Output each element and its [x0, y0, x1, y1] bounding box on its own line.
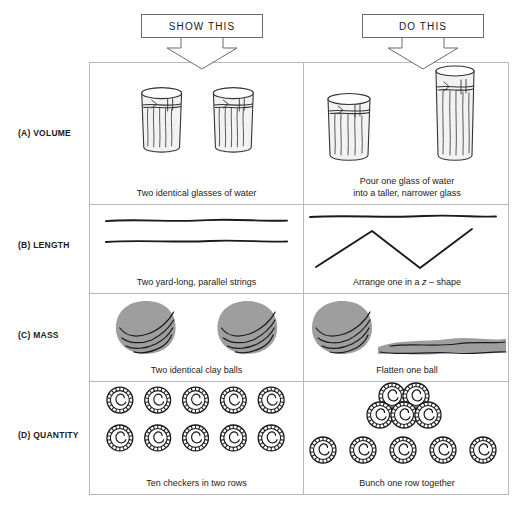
row-label-length: (B) LENGTH — [18, 240, 90, 250]
bunched-cluster-and-spread-row-icon — [304, 382, 510, 470]
arrow-down-show-icon — [141, 36, 263, 70]
cell-quantity-show: Ten checkers in two rows — [90, 382, 304, 494]
caption-mass-show: Two identical clay balls — [90, 365, 303, 377]
caption-length-do: Arrange one in a z – shape — [304, 277, 510, 289]
row-label-quantity: (D) QUANTITY — [18, 430, 90, 440]
caption-text-line2: into a taller, narrower glass — [353, 188, 461, 198]
table-row-quantity: Ten checkers in two rows — [90, 382, 508, 494]
cell-length-show: Two yard-long, parallel strings — [90, 205, 304, 293]
callout-do-this: DO THIS — [362, 14, 484, 38]
callout-do-this-label: DO THIS — [399, 21, 447, 32]
callout-show-this: SHOW THIS — [141, 14, 263, 38]
two-rows-of-five-checkers-icon — [90, 382, 303, 470]
caption-text-line1: Pour one glass of water — [360, 176, 455, 186]
caption-text: Bunch one row together — [359, 478, 455, 488]
straight-string-and-zigzag-string-icon — [304, 205, 510, 275]
row-label-mass: (C) MASS — [18, 330, 90, 340]
callout-show-this-label: SHOW THIS — [169, 21, 235, 32]
caption-text: Two yard-long, parallel strings — [137, 277, 257, 287]
cell-length-do: Arrange one in a z – shape — [304, 205, 510, 293]
two-round-clay-balls-icon — [90, 294, 303, 360]
caption-volume-do: Pour one glass of water into a taller, n… — [304, 176, 510, 199]
caption-length-show: Two yard-long, parallel strings — [90, 277, 303, 289]
caption-text: Two identical glasses of water — [137, 188, 257, 198]
caption-text: Two identical clay balls — [151, 365, 243, 375]
caption-quantity-show: Ten checkers in two rows — [90, 478, 303, 490]
caption-text-post: – shape — [427, 277, 462, 287]
cell-mass-do: Flatten one ball — [304, 294, 510, 381]
caption-text: Ten checkers in two rows — [146, 478, 247, 488]
clay-ball-and-flattened-pancake-icon — [304, 294, 510, 360]
arrow-down-do-icon — [362, 36, 484, 70]
caption-mass-do: Flatten one ball — [304, 365, 510, 377]
row-label-volume: (A) VOLUME — [18, 128, 90, 138]
tasks-table: Two identical glasses of water — [89, 62, 509, 495]
caption-quantity-do: Bunch one row together — [304, 478, 510, 490]
cell-volume-do: Pour one glass of water into a taller, n… — [304, 63, 510, 204]
cell-volume-show: Two identical glasses of water — [90, 63, 304, 204]
table-row-mass: Two identical clay balls — [90, 294, 508, 382]
conservation-tasks-figure: SHOW THIS DO THIS (A) VOLUME (B) LENGTH … — [0, 0, 525, 520]
short-glass-and-tall-narrow-glass-icon — [304, 63, 510, 173]
two-identical-short-glasses-icon — [90, 63, 303, 179]
cell-quantity-do: Bunch one row together — [304, 382, 510, 494]
table-row-volume: Two identical glasses of water — [90, 63, 508, 205]
caption-volume-show: Two identical glasses of water — [90, 188, 303, 200]
table-row-length: Two yard-long, parallel strings Arrange … — [90, 205, 508, 294]
two-parallel-straight-strings-icon — [90, 205, 303, 271]
caption-text-pre: Arrange one in a — [353, 277, 422, 287]
cell-mass-show: Two identical clay balls — [90, 294, 304, 381]
caption-text: Flatten one ball — [376, 365, 438, 375]
